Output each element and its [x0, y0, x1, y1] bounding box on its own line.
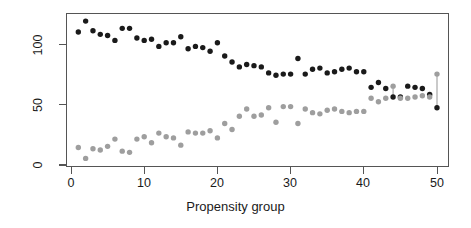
data-point-light-series — [163, 134, 168, 139]
data-point-dark-series — [163, 40, 168, 45]
data-point-light-series — [120, 148, 125, 153]
data-point-light-series — [376, 99, 381, 104]
data-point-light-series — [383, 95, 388, 100]
data-point-dark-series — [185, 46, 190, 51]
data-point-dark-series — [295, 56, 300, 61]
data-point-light-series — [127, 150, 132, 155]
data-point-light-series — [420, 93, 425, 98]
data-point-light-series — [398, 95, 403, 100]
data-point-dark-series — [112, 38, 117, 43]
data-point-light-series — [171, 135, 176, 140]
data-point-dark-series — [405, 83, 410, 88]
data-point-dark-series — [376, 80, 381, 85]
x-tick-label-20: 20 — [197, 176, 237, 190]
x-tick-label-30: 30 — [270, 176, 310, 190]
x-tick-label-50: 50 — [417, 176, 457, 190]
data-point-light-series — [229, 127, 234, 132]
x-tick-50 — [437, 167, 438, 174]
data-point-dark-series — [156, 44, 161, 49]
data-point-dark-series — [120, 26, 125, 31]
data-point-dark-series — [149, 36, 154, 41]
data-point-dark-series — [244, 62, 249, 67]
data-point-light-series — [185, 129, 190, 134]
data-point-dark-series — [339, 67, 344, 72]
y-tick-0 — [59, 164, 66, 165]
x-axis-title: Propensity group — [0, 199, 471, 214]
data-point-dark-series — [134, 35, 139, 40]
data-point-light-series — [288, 104, 293, 109]
data-point-dark-series — [127, 26, 132, 31]
data-point-light-series — [200, 130, 205, 135]
data-point-light-series — [98, 147, 103, 152]
data-point-light-series — [156, 130, 161, 135]
data-point-dark-series — [178, 34, 183, 39]
data-point-light-series — [303, 106, 308, 111]
x-tick-10 — [144, 167, 145, 174]
data-point-dark-series — [229, 59, 234, 64]
data-point-light-series — [76, 145, 81, 150]
data-point-dark-series — [215, 40, 220, 45]
data-point-light-series — [361, 109, 366, 114]
data-point-dark-series — [259, 64, 264, 69]
data-point-dark-series — [325, 70, 330, 75]
data-point-light-series — [222, 121, 227, 126]
data-point-light-series — [251, 114, 256, 119]
data-point-dark-series — [332, 69, 337, 74]
data-point-light-series — [346, 110, 351, 115]
data-point-light-series — [332, 106, 337, 111]
data-point-dark-series — [383, 86, 388, 91]
data-point-dark-series — [105, 33, 110, 38]
data-point-dark-series — [281, 71, 286, 76]
data-point-light-series — [295, 121, 300, 126]
data-point-light-series — [317, 111, 322, 116]
data-point-light-series — [354, 109, 359, 114]
data-point-light-series — [259, 112, 264, 117]
data-point-light-series — [83, 156, 88, 161]
data-point-dark-series — [193, 44, 198, 49]
x-tick-40 — [363, 167, 364, 174]
data-point-light-series — [281, 104, 286, 109]
data-point-light-series — [134, 136, 139, 141]
data-point-light-series — [178, 142, 183, 147]
data-point-light-series — [266, 105, 271, 110]
data-point-dark-series — [273, 73, 278, 78]
data-point-light-series — [405, 95, 410, 100]
data-point-light-series — [207, 128, 212, 133]
data-points-layer — [0, 0, 471, 228]
data-point-dark-series — [200, 45, 205, 50]
x-tick-0 — [71, 167, 72, 174]
x-tick-label-0: 0 — [51, 176, 91, 190]
data-point-dark-series — [237, 64, 242, 69]
data-point-light-series — [273, 120, 278, 125]
data-point-light-series — [339, 109, 344, 114]
data-point-dark-series — [171, 40, 176, 45]
data-point-light-series — [427, 94, 432, 99]
x-tick-label-10: 10 — [124, 176, 164, 190]
x-tick-label-40: 40 — [343, 176, 383, 190]
data-point-dark-series — [361, 69, 366, 74]
data-point-dark-series — [76, 29, 81, 34]
y-tick-100 — [59, 44, 66, 45]
data-point-dark-series — [346, 65, 351, 70]
y-tick-label-50: 50 — [31, 85, 45, 125]
data-point-light-series — [244, 106, 249, 111]
data-point-dark-series — [251, 63, 256, 68]
data-point-dark-series — [83, 18, 88, 23]
data-point-light-series — [112, 136, 117, 141]
data-point-light-series — [310, 110, 315, 115]
data-point-dark-series — [317, 65, 322, 70]
data-point-dark-series — [98, 32, 103, 37]
data-point-light-series — [215, 135, 220, 140]
data-point-light-series — [149, 140, 154, 145]
data-point-light-series — [434, 71, 439, 76]
data-point-dark-series — [310, 67, 315, 72]
data-point-dark-series — [142, 38, 147, 43]
data-point-light-series — [193, 130, 198, 135]
data-point-light-series — [368, 95, 373, 100]
data-point-light-series — [90, 146, 95, 151]
data-point-dark-series — [303, 71, 308, 76]
data-point-dark-series — [222, 53, 227, 58]
y-tick-50 — [59, 104, 66, 105]
data-point-dark-series — [390, 94, 395, 99]
data-point-dark-series — [288, 71, 293, 76]
